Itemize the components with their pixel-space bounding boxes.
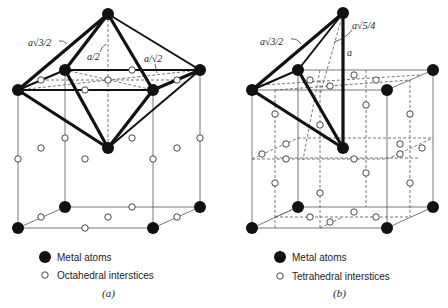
legend-octahedral-interstices: Octahedral interstices [57, 270, 154, 281]
label-a: a [347, 47, 352, 58]
label-a-sqrt3-over-2: a√3/2 [28, 37, 51, 48]
caption-a: (a) [102, 287, 115, 300]
panel-a-octahedral: a√3/2 a/2 a/√2 Metal atoms Octahedral in… [12, 8, 206, 300]
label-a-over-sqrt2: a/√2 [144, 53, 162, 64]
metal-atom-legend-icon [39, 251, 51, 263]
legend-tetrahedral-interstices: Tetrahedral interstices [292, 271, 390, 282]
caption-b: (b) [333, 287, 346, 300]
panel-b-tetrahedral: a√3/2 a√5/4 a Metal atoms Tetrahedral in… [246, 7, 439, 300]
legend-metal-atoms: Metal atoms [57, 252, 111, 263]
octahedral-interstice-legend-icon [42, 272, 48, 278]
tetrahedral-interstice-legend-icon [277, 273, 283, 279]
label-a-over-2: a/2 [87, 51, 100, 62]
metal-atom-legend-icon [274, 251, 286, 263]
label-a-sqrt5-over-4: a√5/4 [352, 20, 375, 31]
label-a-sqrt3-over-2-b: a√3/2 [260, 36, 283, 47]
legend-metal-atoms: Metal atoms [292, 252, 346, 263]
interstices-diagram: a√3/2 a/2 a/√2 Metal atoms Octahedral in… [0, 0, 448, 308]
